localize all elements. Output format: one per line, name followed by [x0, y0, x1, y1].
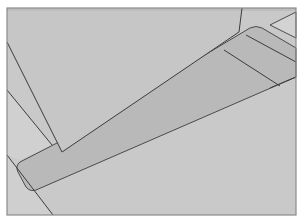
wedge-ramp-illustration [0, 0, 303, 223]
illustration-canvas [0, 0, 303, 223]
